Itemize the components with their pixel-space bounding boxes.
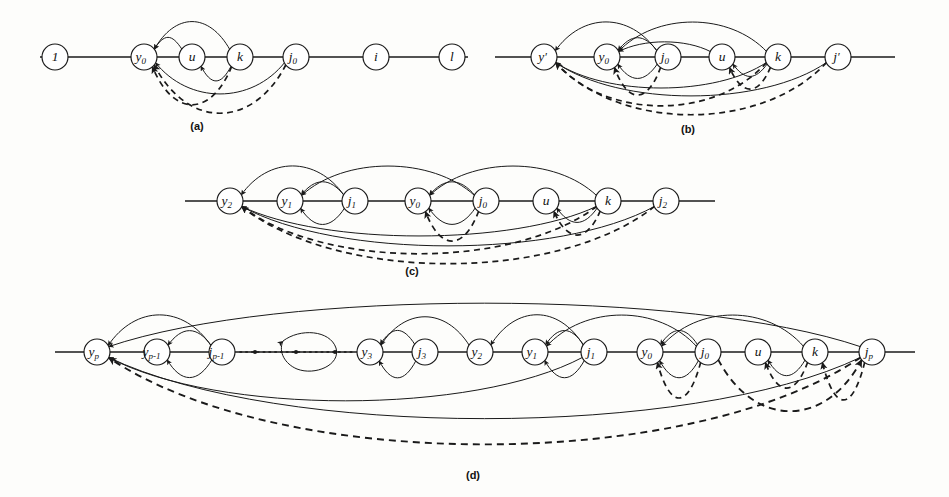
dashed-arc-j0-to-y0 bbox=[425, 211, 479, 241]
node-label: u bbox=[719, 49, 726, 64]
node-label: u bbox=[543, 193, 550, 208]
node-c-y2[interactable]: y2 bbox=[217, 188, 243, 214]
node-a-y0[interactable]: y0 bbox=[131, 44, 157, 70]
node-b-k[interactable]: k bbox=[765, 44, 791, 70]
arc-below-j0-to-y0 bbox=[428, 207, 475, 224]
panel-b: y′y0j0ukj′(b) bbox=[495, 22, 895, 135]
arc-below-j3-to-y3 bbox=[379, 360, 416, 378]
panel-caption-c: (c) bbox=[405, 265, 419, 277]
node-b-u[interactable]: u bbox=[709, 44, 735, 70]
arc-above-j0-to-y0 bbox=[429, 182, 475, 196]
panel-caption-a: (a) bbox=[190, 120, 204, 132]
arc-above-u-to-y0 bbox=[154, 37, 182, 49]
node-label: y′ bbox=[536, 49, 547, 64]
node-b-j0[interactable]: j0 bbox=[655, 44, 681, 70]
dashed-arc-jprime-to-yprime bbox=[555, 62, 827, 115]
arc-above-j1-to-y1 bbox=[545, 331, 584, 346]
node-label: k bbox=[812, 344, 819, 359]
arc-above-k-to-y0 bbox=[618, 22, 767, 52]
panels-group: 1y0ukj0il(a)y′y0j0ukj′(b)y2y1j1y0j0ukj2(… bbox=[40, 22, 915, 481]
figure-canvas: 1y0ukj0il(a)y′y0j0ukj′(b)y2y1j1y0j0ukj2(… bbox=[0, 0, 949, 497]
node-label: j′ bbox=[831, 49, 840, 64]
node-label: k bbox=[237, 49, 244, 64]
node-a-l[interactable]: l bbox=[439, 44, 465, 70]
arc-below-jp-1-to-yp-1 bbox=[167, 359, 212, 377]
panel-caption-d: (d) bbox=[466, 469, 480, 481]
arc-below-j0-to-y0 bbox=[659, 360, 699, 378]
node-d-yp[interactable]: yp bbox=[84, 339, 110, 365]
panel-d: ypyp-1jp-1y3j3y2y1j1y0j0ukjp(d) bbox=[55, 303, 915, 481]
dashed-arc-jp-to-yp bbox=[108, 357, 861, 444]
node-a-1[interactable]: 1 bbox=[42, 44, 68, 70]
panel-c: y2y1j1y0j0ukj2(c) bbox=[185, 166, 715, 277]
node-d-u[interactable]: u bbox=[745, 339, 771, 365]
node-a-u[interactable]: u bbox=[179, 44, 205, 70]
node-d-j1[interactable]: j1 bbox=[581, 339, 607, 365]
node-b-jprime[interactable]: j′ bbox=[825, 44, 851, 70]
dashed-arc-j0-to-y0 bbox=[614, 67, 661, 95]
node-d-yp-1[interactable]: yp-1 bbox=[141, 339, 171, 365]
node-c-j0[interactable]: j0 bbox=[473, 188, 499, 214]
dashed-arc-jp-to-k bbox=[822, 362, 865, 400]
dashed-arc-j0-to-jp bbox=[718, 359, 862, 411]
arc-below-k-to-u bbox=[556, 207, 597, 222]
node-d-y2[interactable]: y2 bbox=[467, 339, 493, 365]
dashed-arc-k-to-yprime bbox=[555, 62, 767, 106]
node-b-yprime[interactable]: y′ bbox=[531, 44, 557, 70]
node-c-u[interactable]: u bbox=[533, 188, 559, 214]
arc-above-jp-1-to-yp-1 bbox=[168, 331, 212, 346]
arc-above-j0-to-y0 bbox=[660, 330, 698, 345]
node-d-j3[interactable]: j3 bbox=[412, 339, 438, 365]
node-label: 1 bbox=[52, 49, 59, 64]
panel-a: 1y0ukj0il(a) bbox=[40, 22, 468, 132]
graph-figure-svg: 1y0ukj0il(a)y′y0j0ukj′(b)y2y1j1y0j0ukj2(… bbox=[0, 0, 949, 497]
node-a-j0[interactable]: j0 bbox=[283, 44, 309, 70]
node-c-y1[interactable]: y1 bbox=[277, 188, 303, 214]
node-label: u bbox=[755, 344, 762, 359]
ellipsis-dot-0 bbox=[253, 350, 257, 354]
arc-below-j1-to-y1 bbox=[544, 360, 584, 378]
arc-below-k-to-u bbox=[768, 360, 806, 376]
node-c-j1[interactable]: j1 bbox=[342, 188, 368, 214]
node-b-y0[interactable]: y0 bbox=[594, 44, 620, 70]
node-d-y1[interactable]: y1 bbox=[522, 339, 548, 365]
node-d-jp[interactable]: jp bbox=[859, 339, 885, 365]
node-d-y0[interactable]: y0 bbox=[637, 339, 663, 365]
ellipsis-dot-1 bbox=[294, 350, 298, 354]
node-label: i bbox=[374, 49, 378, 64]
node-c-j2[interactable]: j2 bbox=[653, 188, 679, 214]
node-a-k[interactable]: k bbox=[227, 44, 253, 70]
node-d-j0[interactable]: j0 bbox=[695, 339, 721, 365]
arc-below-j1-to-y1 bbox=[300, 208, 345, 225]
arc-above-j0-to-y1 bbox=[301, 166, 475, 196]
node-a-i[interactable]: i bbox=[363, 44, 389, 70]
node-c-k[interactable]: k bbox=[595, 188, 621, 214]
node-label: k bbox=[775, 49, 782, 64]
arc-above-j3-to-y3 bbox=[380, 330, 415, 344]
node-label: u bbox=[189, 49, 196, 64]
panel-caption-b: (b) bbox=[681, 123, 695, 135]
node-label: l bbox=[450, 49, 454, 64]
node-d-y3[interactable]: y3 bbox=[357, 339, 383, 365]
node-d-k[interactable]: k bbox=[802, 339, 828, 365]
node-c-y0[interactable]: y0 bbox=[405, 188, 431, 214]
arc-above-j1-to-y1 bbox=[301, 182, 344, 196]
node-label: k bbox=[605, 193, 612, 208]
arc-below-j0-to-y0 bbox=[155, 62, 285, 94]
arc-below-j0-to-y0 bbox=[617, 64, 657, 79]
